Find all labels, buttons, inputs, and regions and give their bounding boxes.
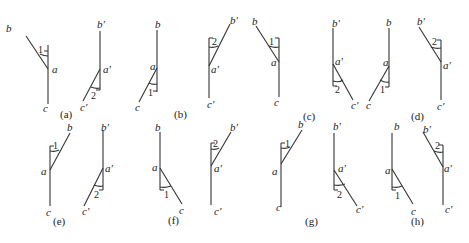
caption-d: (d) — [411, 110, 424, 123]
label-a: a — [152, 161, 158, 173]
label-c-prime: c' — [356, 203, 364, 215]
panel-f: b a c 1 b' a' c' 2 (f) — [152, 121, 239, 227]
panel-a-right-view: b' a' c' 2 — [80, 18, 112, 113]
label-c: c — [366, 99, 371, 111]
label-b-prime: b' — [423, 123, 432, 135]
label-b-prime: b' — [97, 18, 106, 30]
label-c-prime: c' — [437, 100, 445, 112]
angle-label-1: 1 — [395, 190, 400, 201]
label-b: b — [394, 120, 400, 132]
panel-b: b a c 1 b' a' c' 2 (b) — [135, 14, 239, 121]
panel-f-right-view: b' a' c' 2 — [211, 121, 239, 217]
label-c: c — [276, 201, 281, 213]
angle-label-2: 2 — [94, 189, 99, 200]
panel-d-right-view: b' a' c' 2 — [417, 15, 452, 112]
panel-c-right-view: b' a' c' 2 — [332, 17, 359, 111]
angle-label-2: 2 — [91, 90, 96, 101]
angle-label-1: 1 — [148, 87, 153, 98]
panel-g: b a c 1 b' a' c' 2 (g) — [272, 118, 364, 228]
label-b-prime: b' — [332, 17, 341, 29]
caption-a: (a) — [60, 108, 73, 121]
panel-e: b a c 1 b' a' c' 2 (e) — [41, 121, 114, 228]
angle-label-2: 2 — [335, 84, 340, 95]
line-a-c-prime — [334, 170, 357, 206]
label-b-prime: b' — [230, 121, 239, 133]
panel-b-left-view: b a c 1 — [135, 18, 161, 113]
label-b: b — [155, 121, 161, 133]
label-a: a — [385, 164, 391, 176]
panel-e-left-view: b a c 1 — [41, 121, 73, 218]
caption-c: (c) — [303, 110, 316, 123]
panel-d: b a c 1 b' a' c' 2 (d) — [366, 15, 452, 123]
panel-h-left-view: b a c 1 — [385, 120, 416, 217]
label-a: a — [271, 56, 277, 68]
line-a-b-prime — [423, 132, 443, 167]
label-b-prime: b' — [417, 15, 426, 27]
label-a-prime: a' — [105, 162, 114, 174]
label-b: b — [155, 18, 161, 30]
label-b: b — [298, 118, 304, 130]
panel-f-left-view: b a c 1 — [152, 121, 184, 216]
label-a-prime: a' — [443, 59, 452, 71]
angle-label-1: 1 — [380, 84, 385, 95]
label-a-prime: a' — [211, 63, 220, 75]
panel-a: b a c 1 b' a' c' 2 (a) — [6, 18, 112, 121]
label-b: b — [386, 16, 392, 28]
label-c: c — [135, 101, 140, 113]
label-b-prime: b' — [101, 121, 110, 133]
angle-label-2: 2 — [213, 138, 218, 149]
panel-h: b a c 1 b' a' c' 2 (h) — [385, 120, 453, 228]
caption-f: (f) — [168, 214, 179, 227]
label-b-prime: b' — [230, 14, 239, 26]
angle-label-2: 2 — [212, 36, 217, 47]
label-a: a — [41, 165, 47, 177]
angle-label-1: 1 — [164, 189, 169, 200]
panel-e-right-view: b' a' c' 2 — [82, 121, 114, 217]
angle-label-1: 1 — [38, 44, 43, 55]
caption-b: (b) — [174, 108, 187, 121]
label-a: a — [383, 56, 389, 68]
angle-label-1: 1 — [285, 138, 290, 149]
label-c-prime: c' — [445, 203, 453, 215]
label-a-prime: a' — [214, 162, 223, 174]
panel-d-left-view: b a c 1 — [366, 16, 392, 111]
label-c-prime: c' — [80, 101, 88, 113]
label-c-prime: c' — [214, 205, 222, 217]
label-c: c — [46, 206, 51, 218]
line-ac — [369, 66, 389, 101]
label-b: b — [6, 22, 12, 34]
panel-h-right-view: b' a' c' 2 — [423, 123, 453, 215]
label-a-prime: a' — [338, 162, 347, 174]
caption-g: (g) — [305, 215, 318, 228]
label-a: a — [150, 60, 156, 72]
label-c: c — [274, 96, 279, 108]
panel-c-left-view: b a c 1 — [252, 15, 279, 108]
panel-g-left-view: b a c 1 — [272, 118, 304, 213]
label-a: a — [52, 63, 58, 75]
panel-g-right-view: b' a' c' 2 — [333, 120, 364, 215]
projection-diagram: b a c 1 b' a' c' 2 (a) b a c 1 — [0, 0, 469, 243]
caption-e: (e) — [53, 215, 66, 228]
angle-label-1: 1 — [53, 140, 58, 151]
label-c-prime: c' — [82, 205, 90, 217]
label-c: c — [43, 102, 48, 114]
angle-label-2: 2 — [432, 36, 437, 47]
line-ab — [26, 36, 48, 69]
line-a-b-prime — [419, 27, 441, 62]
label-c-prime: c' — [207, 98, 215, 110]
label-b-prime: b' — [333, 120, 342, 132]
panel-c: b a c 1 b' a' c' 2 (c) — [252, 15, 359, 123]
label-a: a — [272, 165, 278, 177]
angle-label-2: 2 — [435, 140, 440, 151]
panel-a-left-view: b a c 1 — [6, 22, 58, 114]
label-b: b — [67, 121, 73, 133]
caption-h: (h) — [411, 215, 424, 228]
label-b: b — [252, 15, 258, 27]
label-a-prime: a' — [103, 63, 112, 75]
label-a-prime: a' — [444, 162, 453, 174]
label-a-prime: a' — [335, 55, 344, 67]
angle-label-1: 1 — [269, 36, 274, 47]
label-c: c — [179, 204, 184, 216]
panel-b-right-view: b' a' c' 2 — [207, 14, 239, 110]
angle-label-2: 2 — [337, 189, 342, 200]
